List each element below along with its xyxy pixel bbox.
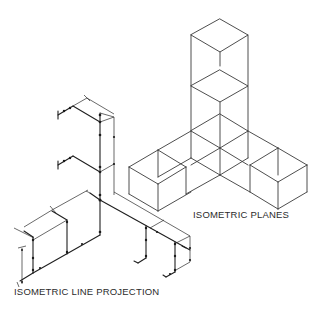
top-plane — [191, 19, 248, 52]
isometric-diagram-figure: ISOMETRIC PLANES ISOMETRIC LINE PROJECTI… — [0, 0, 324, 310]
isometric-drawing — [0, 0, 324, 310]
left-cube — [129, 131, 220, 211]
central-cube — [191, 114, 248, 175]
isometric-planes-label: ISOMETRIC PLANES — [193, 209, 289, 220]
isometric-line-projection-label: ISOMETRIC LINE PROJECTION — [14, 286, 159, 297]
isometric-planes-group — [129, 19, 307, 211]
isometric-line-projection-group — [14, 95, 191, 287]
pipe-joints — [21, 107, 191, 283]
right-cube — [220, 131, 307, 209]
middle-plane — [191, 70, 248, 102]
